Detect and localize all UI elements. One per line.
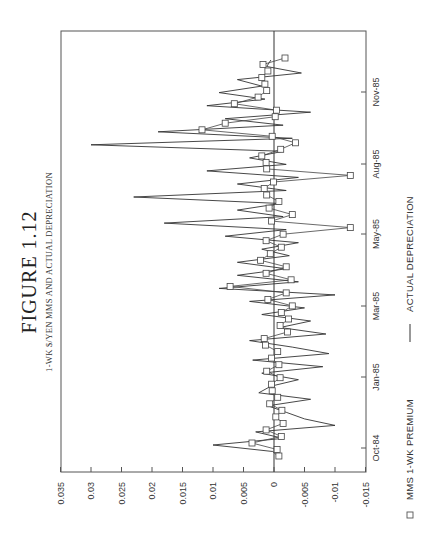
value-axis-label: 0.01 (208, 482, 218, 500)
mms-square-marker-icon (261, 186, 267, 192)
plot-frame (61, 31, 366, 472)
mms-square-marker-icon (263, 159, 269, 165)
value-axis: 0.0350.030.0250.020.0150.010.0050-0.005-… (56, 467, 371, 508)
mms-square-marker-icon (283, 264, 289, 270)
mms-square-marker-icon (269, 133, 275, 139)
mms-square-marker-icon (275, 394, 281, 400)
mms-square-marker-icon (347, 225, 353, 231)
value-axis-label: -0.005 (300, 482, 310, 508)
time-axis-label: Aug-85 (371, 149, 381, 178)
mms-square-marker-icon (286, 316, 292, 322)
time-axis-label: Oct-84 (371, 434, 381, 461)
mms-square-marker-icon (280, 420, 286, 426)
legend: MMS 1-WK PREMIUM ACTUAL DEPRECIATION (404, 196, 415, 518)
time-axis-label: May-85 (371, 219, 381, 249)
mms-square-marker-icon (269, 388, 275, 394)
mms-square-marker-icon (288, 277, 294, 283)
mms-square-marker-icon (273, 107, 279, 113)
mms-square-marker-icon (262, 81, 268, 87)
mms-square-marker-icon (276, 453, 282, 459)
mms-square-marker-icon (284, 329, 290, 335)
legend-label-mms: MMS 1-WK PREMIUM (404, 399, 415, 500)
mms-square-marker-icon (259, 75, 265, 81)
mms-square-marker-icon (263, 270, 269, 276)
figure-canvas: FIGURE 1.12 1-WK $/YEN MMS AND ACTUAL DE… (0, 0, 435, 549)
mms-square-marker-icon (279, 407, 285, 413)
mms-square-marker-icon (347, 172, 353, 178)
value-axis-label: 0.03 (86, 482, 96, 500)
mms-square-marker-icon (289, 212, 295, 218)
mms-square-marker-icon (260, 62, 266, 68)
mms-square-marker-icon (276, 362, 282, 368)
value-axis-label: 0.005 (239, 482, 249, 505)
figure-title-group: FIGURE 1.12 1-WK $/YEN MMS AND ACTUAL DE… (18, 172, 54, 372)
mms-square-marker-icon (277, 375, 283, 381)
mms-square-marker-icon (265, 68, 271, 74)
mms-square-marker-icon (273, 414, 279, 420)
mms-square-marker-icon (283, 290, 289, 296)
mms-square-marker-icon (278, 433, 284, 439)
mms-square-marker-icon (272, 114, 278, 120)
mms-square-marker-icon (269, 218, 275, 224)
mms-square-marker-icon (267, 251, 273, 257)
mms-square-marker-icon (222, 120, 228, 126)
value-axis-label: 0.015 (178, 482, 188, 505)
mms-square-marker-icon (199, 127, 205, 133)
value-axis-label: -0.01 (330, 482, 340, 503)
mms-square-marker-icon (264, 192, 270, 198)
value-axis-label: 0.025 (117, 482, 127, 505)
mms-square-marker-icon (249, 440, 255, 446)
mms-square-marker-icon (265, 296, 271, 302)
mms-square-marker-icon (264, 166, 270, 172)
mms-square-marker-icon (261, 336, 267, 342)
mms-square-marker-icon (258, 257, 264, 263)
value-axis-label: 0 (269, 482, 279, 487)
mms-square-marker-icon (276, 199, 282, 205)
actual-depreciation-line (91, 60, 335, 458)
actual-depreciation-series (91, 60, 335, 458)
legend-label-actual: ACTUAL DEPRECIATION (404, 196, 415, 312)
mms-square-marker-icon (275, 349, 281, 355)
mms-square-marker-icon (263, 238, 269, 244)
mms-square-marker-icon (263, 427, 269, 433)
mms-square-marker-icon (266, 205, 272, 211)
value-axis-label: 0.02 (147, 482, 157, 500)
figure-subtitle: 1-WK $/YEN MMS AND ACTUAL DEPRECIATION (44, 172, 54, 372)
mms-square-marker-icon (264, 368, 270, 374)
value-axis-label: -0.015 (361, 482, 371, 508)
time-axis-label: Jan-85 (371, 363, 381, 391)
mms-square-marker-icon (263, 342, 269, 348)
mms-square-marker-icon (274, 447, 280, 453)
mms-square-marker-icon (255, 94, 261, 100)
mms-square-marker-icon (269, 355, 275, 361)
mms-square-marker-icon (227, 283, 233, 289)
mms-square-marker-icon (278, 146, 284, 152)
mms-square-marker-icon (267, 401, 273, 407)
mms-square-marker-icon (282, 55, 288, 61)
mms-square-marker-icon (292, 140, 298, 146)
value-axis-label: 0.035 (56, 482, 66, 505)
time-axis: Oct-84Jan-85Mar-85May-85Aug-85Nov-85 (361, 77, 381, 461)
legend-square-marker-icon (407, 512, 413, 518)
mms-square-marker-icon (277, 323, 283, 329)
mms-square-marker-icon (278, 244, 284, 250)
time-axis-label: Mar-85 (371, 292, 381, 321)
mms-square-marker-icon (270, 179, 276, 185)
mms-square-marker-icon (259, 153, 265, 159)
mms-square-marker-icon (269, 381, 275, 387)
mms-square-marker-icon (264, 88, 270, 94)
time-axis-label: Nov-85 (371, 77, 381, 106)
mms-square-marker-icon (289, 303, 295, 309)
mms-square-marker-icon (280, 231, 286, 237)
mms-square-marker-icon (278, 310, 284, 316)
mms-square-marker-icon (231, 101, 237, 107)
figure-title: FIGURE 1.12 (18, 210, 40, 333)
